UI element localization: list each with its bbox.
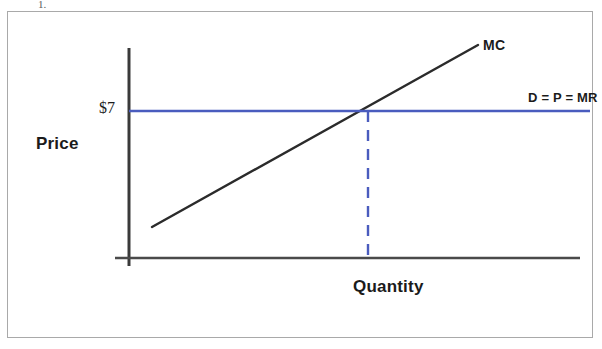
figure-root: 1. Price Quantity $7 MC D = P = MR — [0, 0, 602, 349]
mc-curve-label: MC — [483, 37, 505, 53]
mc-curve — [152, 45, 478, 227]
y-axis-title: Price — [36, 134, 79, 154]
chart-plot-area — [0, 0, 602, 349]
demand-curve-label: D = P = MR — [528, 90, 598, 105]
price-tick-label: $7 — [99, 99, 115, 117]
x-axis-title: Quantity — [353, 277, 424, 297]
